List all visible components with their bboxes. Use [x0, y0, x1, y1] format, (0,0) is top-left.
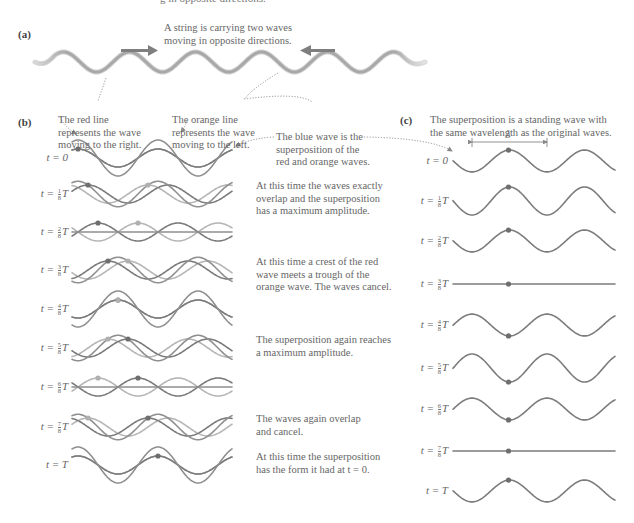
time-label: t = 68T — [8, 380, 68, 394]
red-note-line-2: represents the wave — [58, 127, 141, 140]
blue-note-line-3: red and orange waves. — [276, 156, 370, 169]
time-label: t = 18T — [8, 187, 68, 201]
node-dot — [506, 227, 511, 232]
time-label: t = T — [8, 458, 68, 470]
time-label: t = 48T — [8, 302, 68, 316]
row-note-line: At this time a crest of the red — [256, 256, 392, 269]
red-wave — [72, 456, 232, 474]
red-crest-dot — [85, 182, 90, 187]
wavelength-label: λ — [506, 128, 511, 141]
orange-note-line-2: represents the wave — [172, 127, 255, 140]
red-note-line-3: moving to the right. — [58, 139, 141, 152]
row-note-line: has a maximum amplitude. — [256, 205, 383, 218]
row-note: At this time the superpositionhas the fo… — [256, 451, 380, 476]
orange-wave — [72, 185, 232, 203]
time-label: t = 78T — [388, 444, 448, 458]
row-note-line: At this time the superposition — [256, 451, 380, 464]
row-note-line: overlap and the superposition — [256, 193, 383, 206]
panel-c-caption-line-1: The superposition is a standing wave wit… — [430, 114, 612, 127]
row-note: At this time a crest of the redwave meet… — [256, 256, 392, 294]
time-label: t = 48T — [388, 318, 448, 332]
red-wave — [72, 149, 232, 167]
time-label: t = 0 — [8, 151, 68, 163]
red-wave — [72, 418, 232, 436]
standing-wave — [453, 354, 615, 382]
standing-wave — [453, 480, 615, 502]
node-dot — [506, 184, 511, 189]
panel-b-waves — [72, 140, 232, 483]
red-crest-dot — [125, 336, 130, 341]
panel-c-waves — [453, 147, 615, 501]
blue-note-line-2: superposition of the — [276, 144, 370, 157]
orange-crest-dot — [135, 220, 140, 225]
time-label: t = 58T — [388, 361, 448, 375]
blue-note-line-1: The blue wave is the — [276, 131, 370, 144]
row-note-line: a maximum amplitude. — [256, 347, 391, 360]
row-note-line: The superposition again reaches — [256, 334, 391, 347]
row-note-line: and cancel. — [256, 426, 361, 439]
standing-wave — [453, 187, 615, 215]
red-wave — [72, 261, 232, 279]
row-note-line: has the form it had at t = 0. — [256, 464, 380, 477]
node-dot — [506, 281, 511, 286]
time-label: t = 28T — [388, 234, 448, 248]
orange-crest-dot — [95, 375, 100, 380]
red-wave-note: The red line represents the wave moving … — [58, 114, 141, 152]
time-label: t = 58T — [8, 341, 68, 355]
panel-c-caption-line-2: the same wavelength as the original wave… — [430, 127, 612, 140]
panel-b-label: (b) — [18, 116, 31, 128]
orange-crest-dot — [145, 182, 150, 187]
red-crest-dot — [135, 375, 140, 380]
standing-wave — [453, 230, 615, 252]
orange-crest-dot — [105, 336, 110, 341]
standing-wave — [453, 150, 615, 172]
red-wave — [72, 300, 232, 318]
node-dot — [506, 477, 511, 482]
red-crest-dot — [105, 258, 110, 263]
orange-note-line-1: The orange line — [172, 114, 255, 127]
blue-wave — [72, 447, 232, 483]
string-wave — [35, 52, 425, 72]
orange-crest-dot — [85, 415, 90, 420]
time-label: t = T — [388, 484, 448, 496]
time-label: t = 0 — [388, 154, 448, 166]
time-label: t = 38T — [388, 277, 448, 291]
time-label: t = 38T — [8, 263, 68, 277]
row-note-line: orange wave. The waves cancel. — [256, 281, 392, 294]
red-crest-dot — [155, 453, 160, 458]
row-note: The waves again overlapand cancel. — [256, 413, 361, 438]
row-note-line: The waves again overlap — [256, 413, 361, 426]
red-crest-dot — [145, 415, 150, 420]
orange-crest-dot — [125, 258, 130, 263]
row-note: At this time the waves exactlyoverlap an… — [256, 180, 383, 218]
time-label: t = 18T — [388, 194, 448, 208]
red-note-line-1: The red line — [58, 114, 141, 127]
node-dot — [506, 417, 511, 422]
node-dot — [506, 379, 511, 384]
panel-c-label: (c) — [400, 114, 412, 126]
standing-wave — [453, 314, 615, 336]
time-label: t = 78T — [8, 420, 68, 434]
time-label: t = 28T — [8, 225, 68, 239]
orange-note-line-3: moving to the left. — [172, 139, 255, 152]
panel-c-caption: The superposition is a standing wave wit… — [430, 114, 612, 139]
row-note-line: wave meets a trough of the — [256, 269, 392, 282]
red-crest-dot — [95, 220, 100, 225]
orange-wave-note: The orange line represents the wave movi… — [172, 114, 255, 152]
node-dot — [506, 448, 511, 453]
node-dot — [506, 147, 511, 152]
standing-wave — [453, 398, 615, 420]
orange-crest-dot — [115, 297, 120, 302]
blue-wave — [72, 291, 232, 327]
row-note: The superposition again reachesa maximum… — [256, 334, 391, 359]
orange-wave — [72, 339, 232, 357]
blue-wave-note: The blue wave is the superposition of th… — [276, 131, 370, 169]
node-dot — [506, 333, 511, 338]
time-label: t = 68T — [388, 402, 448, 416]
row-note-line: At this time the waves exactly — [256, 180, 383, 193]
